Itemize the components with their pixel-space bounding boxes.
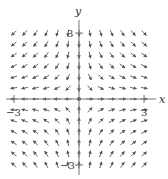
- vector-arrow: [56, 52, 59, 58]
- vector-arrow: [44, 64, 49, 69]
- vector-arrow: [99, 129, 103, 134]
- vector-arrow: [120, 64, 125, 68]
- vector-arrow: [45, 162, 48, 168]
- vector-arrow: [56, 162, 58, 168]
- x-tick-label-pos: 3: [141, 107, 147, 118]
- vector-arrow: [120, 76, 126, 79]
- vector-arrow: [100, 162, 102, 168]
- vector-arrow: [130, 76, 136, 78]
- vector-arrow: [141, 76, 147, 78]
- vector-arrow: [100, 151, 102, 157]
- vector-arrow: [22, 87, 28, 88]
- vector-arrow: [89, 41, 90, 47]
- y-axis-label: y: [74, 5, 82, 18]
- vector-arrow: [89, 63, 91, 69]
- vector-arrow: [11, 88, 17, 89]
- vector-arrow: [33, 53, 38, 58]
- vector-arrow: [88, 74, 91, 80]
- vector-arrow: [89, 162, 90, 168]
- vector-arrow: [100, 30, 102, 36]
- vector-arrow: [99, 52, 102, 58]
- vector-arrow: [110, 52, 114, 57]
- x-axis-label: x: [159, 93, 166, 106]
- vector-arrow: [22, 64, 28, 67]
- vector-arrow: [55, 75, 60, 80]
- vector-arrow: [110, 151, 113, 157]
- vector-arrow: [44, 75, 50, 79]
- vector-arrow: [23, 31, 27, 36]
- vector-arrow: [109, 64, 114, 69]
- vector-arrow: [12, 31, 17, 36]
- vector-arrow: [120, 152, 124, 157]
- vector-arrow: [142, 42, 147, 46]
- vector-arrow: [11, 141, 16, 145]
- vector-arrow: [121, 30, 125, 35]
- vector-arrow: [67, 52, 69, 58]
- vector-arrow: [11, 42, 16, 46]
- vector-arrow: [55, 119, 60, 124]
- vector-arrow: [131, 130, 137, 133]
- vector-arrow: [33, 141, 38, 146]
- vector-arrow: [142, 152, 147, 156]
- vector-arrow: [23, 163, 27, 168]
- vector-arrow: [88, 118, 91, 124]
- vector-arrow: [142, 163, 147, 168]
- vector-arrow: [88, 108, 93, 113]
- vector-arrow: [22, 76, 28, 78]
- vector-arrow: [89, 140, 91, 146]
- vector-arrow: [33, 120, 39, 123]
- vector-arrow: [34, 152, 38, 157]
- x-tick-label-neg: −3: [6, 107, 21, 118]
- vector-arrow: [67, 129, 69, 135]
- vector-arrow: [45, 52, 49, 57]
- vector-arrow: [141, 141, 146, 145]
- vector-arrow: [23, 42, 28, 47]
- vector-arrow: [119, 109, 125, 111]
- vector-arrow: [11, 152, 16, 156]
- vector-arrow: [66, 86, 71, 91]
- vector-arrow: [11, 76, 17, 78]
- vector-arrow: [89, 151, 90, 157]
- vector-arrow: [33, 64, 38, 68]
- vector-arrow: [22, 109, 28, 110]
- vector-arrow: [130, 120, 136, 122]
- vector-arrow: [68, 151, 69, 157]
- vector-arrow: [12, 163, 17, 168]
- vector-arrow: [44, 130, 49, 135]
- vector-arrow: [98, 87, 104, 90]
- vector-arrow: [22, 120, 28, 122]
- vector-arrow: [99, 140, 102, 146]
- vector-arrow: [130, 109, 136, 110]
- vector-arrow: [141, 120, 147, 122]
- vector-arrow: [131, 141, 136, 145]
- vector-arrow: [109, 87, 115, 89]
- vector-arrow: [120, 130, 125, 134]
- vector-arrow: [67, 118, 70, 124]
- vector-arrow: [34, 30, 38, 35]
- vector-arrow: [67, 140, 69, 146]
- vector-arrow: [11, 65, 17, 68]
- vector-arrow: [22, 130, 28, 133]
- vector-arrow: [56, 30, 58, 36]
- vector-arrow: [56, 140, 59, 146]
- vector-arrow: [32, 87, 38, 89]
- vector-arrow: [120, 141, 125, 146]
- vector-arrow: [11, 131, 17, 134]
- vector-arrow: [131, 152, 136, 157]
- vector-arrow: [141, 53, 146, 57]
- origin-point: [77, 97, 81, 101]
- vector-arrow: [22, 53, 27, 57]
- vector-arrow: [11, 53, 16, 57]
- vector-arrow: [120, 42, 124, 47]
- vector-arrow: [120, 120, 126, 123]
- vector-arrow: [100, 41, 102, 47]
- vector-arrow: [121, 162, 125, 167]
- vector-arrow: [34, 162, 38, 167]
- vector-arrow: [141, 131, 147, 134]
- vector-arrow: [56, 41, 58, 47]
- vector-arrow: [110, 162, 113, 168]
- vector-arrow: [33, 76, 39, 79]
- vector-arrow: [141, 65, 147, 68]
- vector-arrow: [45, 140, 49, 145]
- vector-arrow: [109, 119, 115, 123]
